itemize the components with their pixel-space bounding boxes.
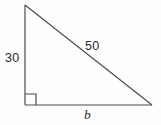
triangle-drawing — [0, 0, 161, 125]
hypotenuse-label: 50 — [85, 40, 99, 53]
vertical-leg-label: 30 — [5, 52, 19, 65]
right-triangle-figure: 30 50 b — [0, 0, 161, 125]
hypotenuse-line — [25, 5, 152, 105]
right-angle-icon — [25, 94, 36, 105]
horizontal-leg-label: b — [84, 108, 91, 122]
